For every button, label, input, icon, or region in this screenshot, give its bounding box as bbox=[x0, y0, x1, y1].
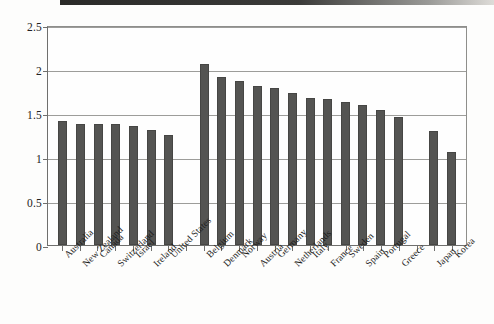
x-label-cell bbox=[408, 250, 426, 324]
bar bbox=[394, 117, 403, 246]
x-label-cell: Germany bbox=[266, 250, 284, 324]
bar-slot bbox=[54, 27, 72, 245]
bar bbox=[58, 121, 67, 245]
bar-slot bbox=[266, 27, 284, 245]
bar-slot bbox=[372, 27, 390, 245]
bar-slot bbox=[213, 27, 231, 245]
x-label-cell: Portugal bbox=[372, 250, 390, 324]
bar-slot bbox=[248, 27, 266, 245]
y-tick-label: 1.5 bbox=[27, 109, 42, 121]
x-label-cell: Korea bbox=[443, 250, 461, 324]
x-label-cell bbox=[177, 250, 195, 324]
bar-slot bbox=[284, 27, 302, 245]
bar bbox=[358, 105, 367, 245]
bar bbox=[217, 77, 226, 245]
bar-slot bbox=[142, 27, 160, 245]
bar bbox=[76, 124, 85, 245]
bars-layer bbox=[48, 27, 466, 245]
bar-slot bbox=[231, 27, 249, 245]
y-tick-label: 2.5 bbox=[27, 21, 42, 33]
bar bbox=[235, 81, 244, 245]
x-label-cell: Greece bbox=[390, 250, 408, 324]
x-label-cell: Israel bbox=[124, 250, 142, 324]
bar-slot bbox=[125, 27, 143, 245]
bar bbox=[447, 152, 456, 245]
bar bbox=[306, 98, 315, 245]
y-tick-label: 0 bbox=[36, 241, 42, 253]
bar bbox=[341, 102, 350, 245]
bar-slot-empty bbox=[407, 27, 425, 245]
x-label-cell: Spain bbox=[354, 250, 372, 324]
bar-slot bbox=[160, 27, 178, 245]
bar-slot bbox=[195, 27, 213, 245]
x-label-cell: Denmark bbox=[213, 250, 231, 324]
x-axis-labels: AustraliaNew ZealandCanadaSwitzerlandIsr… bbox=[47, 250, 467, 324]
x-label-cell: Switzerland bbox=[106, 250, 124, 324]
x-label-cell: Italy bbox=[301, 250, 319, 324]
bar bbox=[164, 135, 173, 245]
x-label-cell: Austria bbox=[248, 250, 266, 324]
bar-slot bbox=[337, 27, 355, 245]
x-label-cell: Canada bbox=[88, 250, 106, 324]
bar-slot bbox=[389, 27, 407, 245]
y-tick-label: 1 bbox=[36, 153, 42, 165]
bar-chart-figure: 00.511.522.5 AustraliaNew ZealandCanadaS… bbox=[0, 0, 494, 324]
x-label-cell: Japan bbox=[425, 250, 443, 324]
bar-slot bbox=[107, 27, 125, 245]
x-label-cell: Australia bbox=[53, 250, 71, 324]
x-label-cell: United States bbox=[159, 250, 177, 324]
bar bbox=[129, 126, 138, 245]
x-label-cell: New Zealand bbox=[71, 250, 89, 324]
y-tick-label: 2 bbox=[36, 65, 42, 77]
bar-slot bbox=[72, 27, 90, 245]
bar bbox=[323, 99, 332, 245]
bar-slot bbox=[442, 27, 460, 245]
bar-slot bbox=[425, 27, 443, 245]
bar bbox=[376, 110, 385, 245]
bar-slot bbox=[354, 27, 372, 245]
bar bbox=[288, 93, 297, 245]
x-label-cell: Sweden bbox=[337, 250, 355, 324]
bar bbox=[253, 86, 262, 245]
bar-slot bbox=[89, 27, 107, 245]
x-label-cell: France bbox=[319, 250, 337, 324]
plot-area: 00.511.522.5 bbox=[47, 26, 467, 246]
bar bbox=[270, 88, 279, 246]
x-label-cell: Belgium bbox=[195, 250, 213, 324]
x-label-cell: Netherlands bbox=[284, 250, 302, 324]
bar-slot-empty bbox=[178, 27, 196, 245]
x-label-cell: Ireland bbox=[142, 250, 160, 324]
x-label-cell: Norway bbox=[230, 250, 248, 324]
bar bbox=[429, 131, 438, 245]
bar-slot bbox=[319, 27, 337, 245]
bar bbox=[94, 124, 103, 245]
y-tick-label: 0.5 bbox=[27, 197, 42, 209]
bar-slot bbox=[301, 27, 319, 245]
